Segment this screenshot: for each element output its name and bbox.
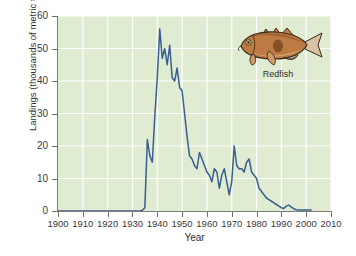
y-tick-label-60: 60 [0,11,48,21]
y-tick-label-10: 10 [0,174,48,184]
y-tick-label-50: 50 [0,44,48,54]
x-tick-1960 [207,212,208,217]
y-tick-40 [52,81,58,82]
landings-line-series [58,16,331,211]
y-tick-label-0: 0 [0,206,48,216]
y-tick-50 [52,49,58,50]
x-tick-1940 [157,212,158,217]
x-tick-2010 [331,212,332,217]
x-tick-1950 [182,212,183,217]
x-tick-2000 [306,212,307,217]
y-tick-10 [52,179,58,180]
x-tick-1910 [83,212,84,217]
redfish-landings-figure: 0102030405060 19001910192019301940195019… [0,0,356,256]
y-tick-label-40: 40 [0,76,48,86]
y-tick-label-30: 30 [0,109,48,119]
x-axis-title: Year [58,232,331,243]
x-tick-1970 [232,212,233,217]
x-tick-1980 [257,212,258,217]
y-axis-title: Landings (thousands of metric tons) [27,0,38,151]
y-tick-label-20: 20 [0,141,48,151]
plot-area [58,16,331,211]
x-tick-1930 [132,212,133,217]
x-tick-1990 [281,212,282,217]
x-tick-1900 [58,212,59,217]
x-tick-label-2010: 2010 [311,219,351,229]
y-tick-30 [52,114,58,115]
x-axis-line [57,211,332,212]
y-tick-20 [52,146,58,147]
x-tick-1920 [108,212,109,217]
y-tick-60 [52,16,58,17]
